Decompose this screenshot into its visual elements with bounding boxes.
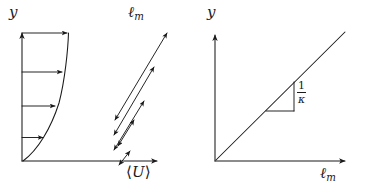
left-mixing-length-label: ℓm xyxy=(128,5,144,22)
left-x-axis-label: ⟨U⟩ xyxy=(126,165,151,180)
mean-velocity-symbol: U xyxy=(132,163,145,181)
right-y-axis-label: y xyxy=(207,5,215,20)
mean-velocity-profile-curve xyxy=(23,33,69,161)
mixing-length-arrow-2 xyxy=(114,67,154,135)
right-mixing-length-subscript: m xyxy=(326,172,336,183)
mixing-length-arrow-1 xyxy=(115,33,167,120)
mixing-length-arrow-group xyxy=(114,33,167,165)
right-x-axis-label: ℓm xyxy=(320,166,336,183)
velocity-arrow-group xyxy=(22,33,67,138)
mixing-length-arrow-3 xyxy=(114,101,144,150)
mixing-length-line xyxy=(216,32,345,160)
slope-denominator: κ xyxy=(297,94,306,105)
figure-svg xyxy=(0,0,366,193)
slope-numerator: 1 xyxy=(297,80,306,92)
left-mixing-length-subscript: m xyxy=(134,11,144,22)
left-y-axis-label: y xyxy=(9,5,17,20)
figure-container: y ℓm ⟨U⟩ y ℓm 1 κ xyxy=(0,0,366,193)
angle-bracket-close: ⟩ xyxy=(145,163,151,181)
slope-label: 1 κ xyxy=(297,80,306,105)
